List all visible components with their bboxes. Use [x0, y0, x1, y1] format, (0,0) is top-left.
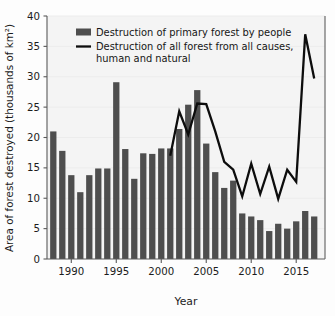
bar: [284, 229, 290, 259]
bar: [248, 216, 254, 259]
legend-swatch-primary-forest: [76, 29, 91, 36]
x-tick-label: 2010: [238, 266, 264, 277]
bar: [230, 181, 236, 259]
bar: [131, 179, 137, 259]
bar: [122, 149, 128, 259]
bar: [203, 144, 209, 259]
bar: [257, 220, 263, 259]
bar: [167, 148, 173, 259]
x-tick-label: 1995: [103, 266, 129, 277]
bar: [68, 175, 74, 259]
y-tick-label: 40: [27, 11, 40, 22]
bar: [77, 192, 83, 259]
bar: [311, 216, 317, 259]
bar: [50, 131, 56, 259]
bar: [176, 129, 182, 259]
y-tick-label: 5: [34, 223, 40, 234]
x-tick-label: 2000: [148, 266, 174, 277]
legend-label-primary-forest: Destruction of primary forest by people: [96, 27, 291, 38]
y-tick-label: 35: [27, 41, 40, 52]
bar: [104, 168, 110, 259]
y-axis-title: Area of forest destroyed (thousands of k…: [3, 24, 15, 252]
bar: [140, 153, 146, 259]
bar: [149, 154, 155, 259]
y-tick-label: 15: [27, 162, 40, 173]
bar: [59, 151, 65, 259]
x-tick-label: 2015: [283, 266, 309, 277]
bar: [275, 224, 281, 259]
y-axis-ticks: 0510152025303540: [27, 11, 47, 265]
x-tick-label: 1990: [58, 266, 84, 277]
bar: [221, 188, 227, 259]
y-tick-label: 0: [34, 254, 40, 265]
bar: [212, 172, 218, 259]
bar: [302, 211, 308, 259]
forest-destruction-chart-figure: 0510152025303540 19901995200020052010201…: [0, 0, 335, 316]
legend-label-all-forest-line2: human and natural: [96, 53, 191, 64]
y-tick-label: 30: [27, 71, 40, 82]
bar: [113, 82, 119, 259]
bar: [95, 168, 101, 259]
bar: [86, 175, 92, 259]
bar: [293, 221, 299, 259]
y-tick-label: 25: [27, 102, 40, 113]
y-tick-label: 20: [27, 132, 40, 143]
x-axis-ticks: 199019952000200520102015: [58, 259, 309, 277]
y-tick-label: 10: [27, 193, 40, 204]
bar: [239, 213, 245, 259]
bar: [194, 90, 200, 259]
bar: [158, 148, 164, 259]
legend-label-all-forest-line1: Destruction of all forest from all cause…: [96, 41, 293, 52]
x-axis-title: Year: [174, 295, 198, 308]
x-tick-label: 2005: [193, 266, 219, 277]
chart-canvas: 0510152025303540 19901995200020052010201…: [0, 0, 335, 316]
bar: [266, 231, 272, 259]
